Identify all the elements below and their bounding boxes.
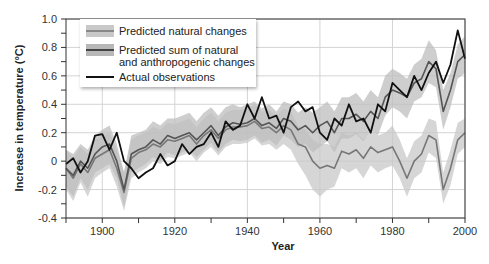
legend-item-observations: Actual observations	[86, 71, 215, 83]
y-tick-label: -0.2	[38, 184, 57, 196]
y-tick-label: 0.8	[42, 41, 57, 53]
x-tick-label: 2000	[453, 225, 477, 237]
legend-label: Predicted natural changes	[119, 25, 247, 37]
x-axis-title: Year	[271, 240, 295, 252]
y-tick-label: -0.4	[38, 212, 57, 224]
legend-item-combined: Predicted sum of natural and anthropogen…	[86, 44, 255, 68]
chart-legend: Predicted natural changes Predicted sum …	[80, 19, 256, 87]
x-tick-label: 1940	[235, 225, 259, 237]
x-tick-label: 1980	[380, 225, 404, 237]
legend-label: Predicted sum of natural and anthropogen…	[119, 44, 255, 68]
x-tick-label: 1900	[90, 225, 114, 237]
y-tick-label: 0.4	[42, 98, 57, 110]
y-tick-label: 1.0	[42, 13, 57, 25]
x-tick-label: 1920	[163, 225, 187, 237]
y-tick-label: 0	[51, 155, 57, 167]
observations-swatch-icon	[86, 71, 114, 83]
combined-swatch-icon	[86, 44, 114, 56]
y-tick-label: 0.6	[42, 70, 57, 82]
y-axis-title: Increase in temperature (°C)	[13, 44, 25, 191]
x-tick-label: 1960	[308, 225, 332, 237]
legend-label: Actual observations	[119, 71, 215, 83]
natural-swatch-icon	[86, 25, 114, 37]
y-tick-label: 0.2	[42, 127, 57, 139]
legend-item-natural: Predicted natural changes	[86, 25, 247, 37]
